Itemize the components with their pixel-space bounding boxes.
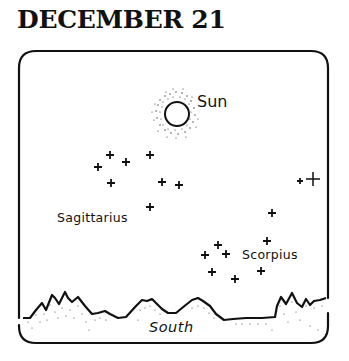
- star-icon: [94, 163, 102, 171]
- star-icon: [214, 241, 222, 249]
- star-icon: [263, 237, 271, 245]
- sagittarius-label: Sagittarius: [57, 212, 128, 225]
- star-icon: [297, 178, 303, 184]
- star-icon: [158, 178, 166, 186]
- star-icon: [146, 151, 154, 159]
- sagittarius-stars: [94, 151, 183, 211]
- star-icon: [122, 158, 130, 166]
- star-icon: [257, 267, 265, 275]
- sky-diagram: [0, 0, 349, 361]
- star-icon: [222, 250, 230, 258]
- star-icon: [268, 209, 276, 217]
- sun-label: Sun: [197, 94, 227, 110]
- star-icon: [106, 151, 114, 159]
- star-icon: [231, 275, 239, 283]
- star-icon: [201, 251, 209, 259]
- direction-label: South: [149, 320, 194, 335]
- sun-icon: [165, 102, 189, 126]
- scorpius-label: Scorpius: [242, 249, 298, 262]
- star-icon: [146, 203, 154, 211]
- star-icon: [107, 179, 115, 187]
- scorpius-stars: [201, 172, 320, 283]
- bright-star-icon: [306, 172, 320, 186]
- star-icon: [208, 268, 216, 276]
- star-icon: [175, 181, 183, 189]
